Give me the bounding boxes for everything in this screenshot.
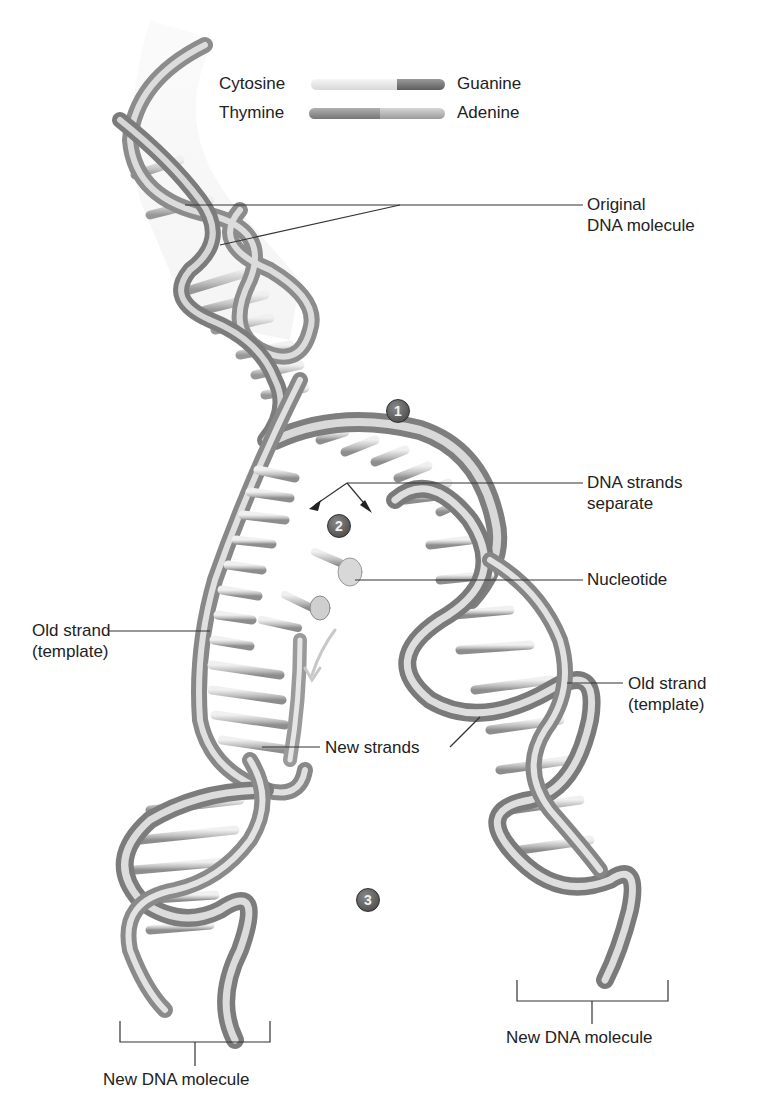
label-original-line1: Original <box>587 194 646 215</box>
label-old-strand-right-line1: Old strand <box>628 673 706 694</box>
dna-replication-diagram: Cytosine Guanine Thymine Adenine Origina… <box>0 0 757 1109</box>
legend-cytosine: Cytosine <box>219 73 285 94</box>
label-old-strand-right-line2: (template) <box>628 694 705 715</box>
replication-fork <box>125 380 633 1040</box>
label-original-line2: DNA molecule <box>587 215 695 236</box>
label-new-dna-right: New DNA molecule <box>506 1027 652 1048</box>
legend-adenine: Adenine <box>457 102 519 123</box>
step-badge-3: 3 <box>356 888 380 912</box>
free-nucleotide <box>338 558 362 586</box>
step-badge-2: 2 <box>327 514 351 538</box>
label-nucleotide: Nucleotide <box>587 569 667 590</box>
label-strands-separate-line1: DNA strands <box>587 472 682 493</box>
label-strands-separate-line2: separate <box>587 493 653 514</box>
legend-bar-cytosine-guanine <box>311 79 445 90</box>
dna-helix-illustration <box>0 0 757 1109</box>
label-new-strands: New strands <box>325 737 419 758</box>
label-new-dna-left: New DNA molecule <box>103 1069 249 1090</box>
label-old-strand-left-line1: Old strand <box>32 620 110 641</box>
label-old-strand-left-line2: (template) <box>32 641 109 662</box>
legend-guanine: Guanine <box>457 73 521 94</box>
legend-bar-thymine-adenine <box>309 108 445 119</box>
legend-thymine: Thymine <box>219 102 284 123</box>
leader-lines <box>108 205 668 1066</box>
step-badge-1: 1 <box>386 399 410 423</box>
